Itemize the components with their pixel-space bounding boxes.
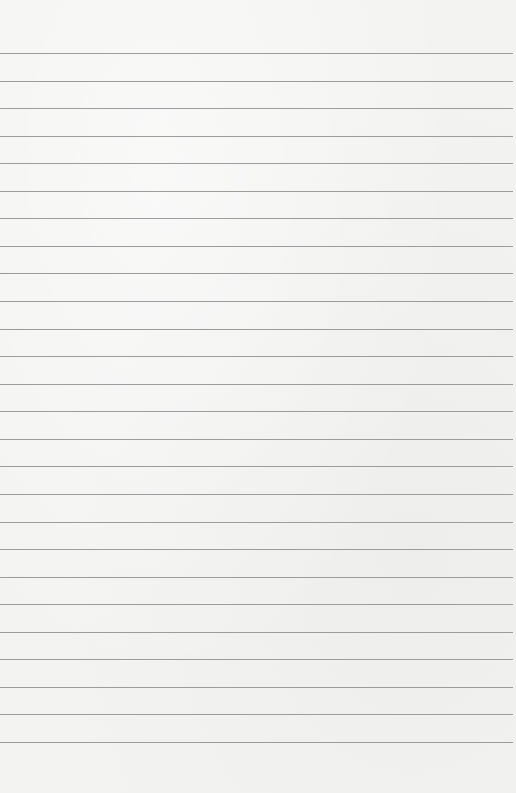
- ruled-line: [0, 246, 513, 247]
- ruled-line: [0, 549, 513, 550]
- ruled-line: [0, 108, 513, 109]
- ruled-line: [0, 439, 513, 440]
- ruled-line: [0, 136, 513, 137]
- ruled-line: [0, 687, 513, 688]
- ruled-line: [0, 411, 513, 412]
- ruled-line: [0, 356, 513, 357]
- ruled-line: [0, 522, 513, 523]
- ruled-line: [0, 632, 513, 633]
- ruled-line: [0, 163, 513, 164]
- ruled-line: [0, 273, 513, 274]
- ruled-line: [0, 577, 513, 578]
- ruled-line: [0, 191, 513, 192]
- lined-paper-sheet: [0, 0, 516, 793]
- ruled-line: [0, 329, 513, 330]
- ruled-line: [0, 53, 513, 54]
- ruled-line: [0, 714, 513, 715]
- ruled-line: [0, 81, 513, 82]
- ruled-line: [0, 218, 513, 219]
- ruled-line: [0, 466, 513, 467]
- ruled-line: [0, 742, 513, 743]
- ruled-line: [0, 604, 513, 605]
- ruled-line: [0, 659, 513, 660]
- ruled-line: [0, 384, 513, 385]
- ruled-line: [0, 494, 513, 495]
- ruled-line: [0, 301, 513, 302]
